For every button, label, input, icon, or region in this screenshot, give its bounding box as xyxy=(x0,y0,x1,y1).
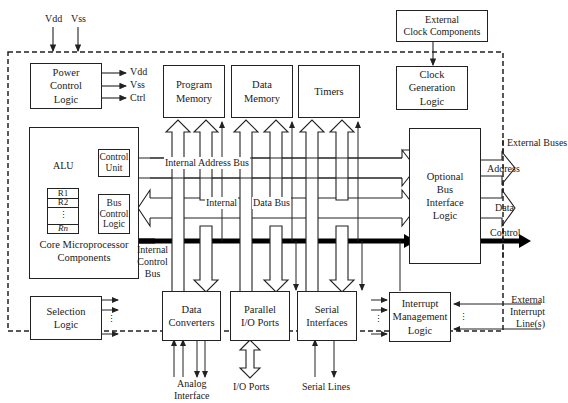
timers-block: Timers xyxy=(298,65,360,118)
selection-ellipsis: ⋮ xyxy=(107,314,116,325)
bus-interface-label: Optional Bus Interface Logic xyxy=(426,170,463,223)
external-data-bus-label: Data xyxy=(495,202,514,214)
external-interrupt-lines-label: External Interrupt Line(s) xyxy=(510,294,545,330)
serial-interfaces-label: Serial Interfaces xyxy=(306,303,347,329)
external-address-bus-label: Address xyxy=(487,163,520,175)
clock-generation-label: Clock Generation Logic xyxy=(409,68,456,107)
program-memory-label: Program Memory xyxy=(176,78,212,104)
interrupt-management-label: Interrupt Management Logic xyxy=(393,297,448,336)
timers-label: Timers xyxy=(314,85,343,98)
control-unit-block: Control Unit xyxy=(98,149,130,177)
power-control-label: Power Control Logic xyxy=(50,66,82,105)
external-clock-label: External Clock Components xyxy=(404,14,481,39)
selection-logic-block: Selection Logic xyxy=(30,296,102,340)
selection-logic-label: Selection Logic xyxy=(46,305,85,331)
interrupt-input-ellipsis: ⋮ xyxy=(374,314,383,325)
interrupt-management-logic-block: Interrupt Management Logic xyxy=(389,292,451,342)
core-label: Core Microprocessor Components xyxy=(40,238,129,264)
bus-control-logic-block: Bus Control Logic xyxy=(98,194,130,234)
vss-input-label: Vss xyxy=(71,13,86,25)
vdd-input-label: Vdd xyxy=(45,13,62,25)
internal-control-bus-label: Internal Control Bus xyxy=(137,244,168,280)
bus-control-label: Bus Control Logic xyxy=(99,198,128,231)
clock-generation-logic-block: Clock Generation Logic xyxy=(396,66,468,110)
optional-bus-interface-logic-block: Optional Bus Interface Logic xyxy=(409,128,481,264)
external-buses-title: External Buses xyxy=(507,137,567,149)
control-unit-label: Control Unit xyxy=(99,152,128,174)
data-memory-block: Data Memory xyxy=(231,65,293,118)
power-out-ctrl: Ctrl xyxy=(130,92,146,104)
parallel-io-label: Parallel I/O Ports xyxy=(241,303,279,329)
internal-data-bus-label-left: Internal xyxy=(205,197,238,209)
parallel-io-ports-block: Parallel I/O Ports xyxy=(230,291,290,341)
data-converters-block: Data Converters xyxy=(162,291,221,341)
external-interrupt-ellipsis: ⋮ xyxy=(459,312,468,323)
serial-interfaces-block: Serial Interfaces xyxy=(297,291,357,341)
data-memory-label: Data Memory xyxy=(244,78,280,104)
power-out-vdd: Vdd xyxy=(130,66,147,78)
internal-data-bus-label-right: Data Bus xyxy=(252,197,291,209)
io-ports-label: I/O Ports xyxy=(233,381,269,393)
microcontroller-diagram: Vdd Vss External Clock Components Power … xyxy=(0,0,568,403)
program-memory-block: Program Memory xyxy=(163,65,225,118)
internal-address-bus-label: Internal Address Bus xyxy=(164,157,250,169)
alu-label: ALU xyxy=(53,160,74,172)
external-control-bus-label: Control xyxy=(490,227,521,239)
register-file: R1 R2 ⋮ Rn xyxy=(47,188,79,234)
power-out-vss: Vss xyxy=(130,79,145,91)
external-clock-components: External Clock Components xyxy=(396,10,488,42)
data-converters-label: Data Converters xyxy=(168,303,214,329)
register-rn: Rn xyxy=(48,224,78,233)
serial-lines-label: Serial Lines xyxy=(302,381,350,393)
power-control-logic-block: Power Control Logic xyxy=(30,63,102,109)
analog-interface-label: Analog Interface xyxy=(174,378,210,402)
